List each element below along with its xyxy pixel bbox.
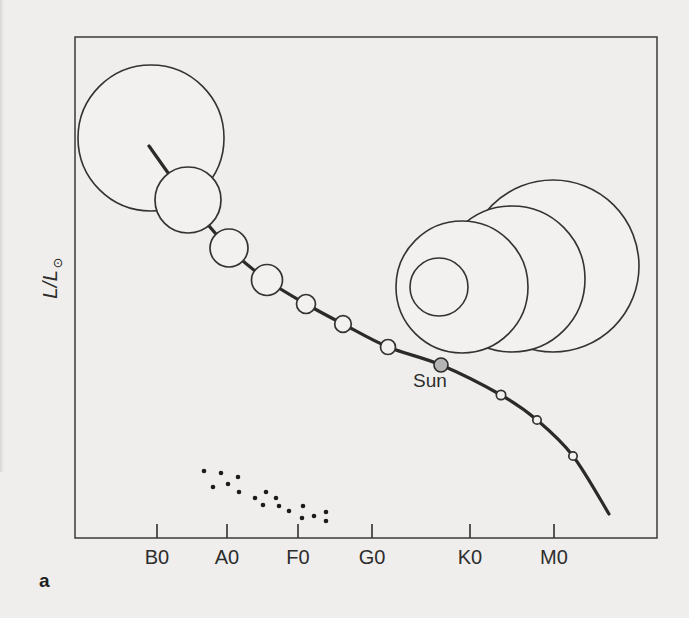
white-dwarf-dot (300, 516, 305, 521)
x-tick-label: K0 (458, 546, 482, 568)
white-dwarf-dot (226, 482, 231, 487)
panel-label: a (39, 570, 50, 592)
white-dwarf-dot (312, 514, 317, 519)
main-sequence-star-8 (496, 390, 505, 399)
white-dwarf-dot (236, 475, 241, 480)
white-dwarf-dot (264, 490, 269, 495)
x-tick-label: M0 (540, 546, 568, 568)
main-sequence-star-3 (210, 229, 248, 267)
sun-symbol-icon: ⊙ (50, 257, 65, 268)
main-sequence-star-10 (569, 452, 577, 460)
white-dwarf-dot (324, 510, 329, 515)
white-dwarf-dot (301, 504, 306, 509)
x-tick-label: B0 (145, 546, 169, 568)
y-axis-label-text: L/L (39, 270, 61, 299)
white-dwarf-dot (219, 471, 224, 476)
main-sequence-star-2 (155, 167, 221, 233)
figure-panel: SunB0A0F0G0K0M0 L/L⊙ a (0, 0, 689, 618)
x-tick-label: F0 (286, 546, 309, 568)
main-sequence-star-4 (252, 265, 283, 296)
white-dwarf-dot (237, 490, 242, 495)
main-sequence-star-5 (297, 295, 316, 314)
white-dwarf-dot (211, 485, 216, 490)
white-dwarf-dot (202, 469, 207, 474)
white-dwarf-dot (287, 509, 292, 514)
x-tick-label: G0 (359, 546, 386, 568)
y-axis-label: L/L⊙ (39, 257, 65, 299)
white-dwarf-dot (261, 503, 266, 508)
x-tick-label: A0 (215, 546, 239, 568)
white-dwarf-dot (277, 504, 282, 509)
white-dwarf-dot (324, 519, 329, 524)
sun-label: Sun (413, 370, 447, 391)
main-sequence-star-6 (335, 316, 352, 333)
hr-diagram-chart: SunB0A0F0G0K0M0 (0, 0, 689, 618)
white-dwarf-dot (274, 496, 279, 501)
giant-star-core (410, 258, 468, 316)
white-dwarf-dot (253, 496, 258, 501)
main-sequence-star-7 (381, 340, 396, 355)
main-sequence-star-9 (533, 416, 541, 424)
